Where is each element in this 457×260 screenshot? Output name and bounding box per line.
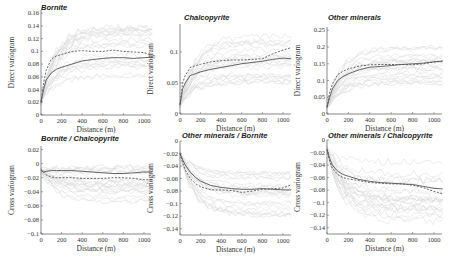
- y-axis-label: Direct variogram: [146, 43, 155, 95]
- panel-6: −0.14−0.12−0.1−0.08−0.06−0.04−0.02002004…: [293, 131, 443, 253]
- y-tick-label: 0.08: [28, 60, 39, 67]
- panel-title: Other minerals / Bornite: [182, 131, 267, 140]
- realization-lines: [41, 24, 152, 105]
- y-tick-label: −0.02: [24, 174, 39, 181]
- y-tick-label: 0.06: [28, 73, 40, 80]
- y-tick-label: 0.1: [31, 47, 39, 54]
- y-tick-label: −0.04: [163, 162, 179, 169]
- y-axis-label: Direct variogram: [7, 37, 16, 89]
- y-tick-label: 0.15: [314, 60, 325, 67]
- x-tick-label: 400: [216, 116, 226, 123]
- x-tick-label: 200: [196, 237, 206, 244]
- panel-title: Other minerals / Chalcopyrite: [328, 131, 433, 140]
- x-tick-label: 400: [77, 236, 87, 243]
- x-tick-label: 200: [344, 116, 354, 123]
- x-tick-label: 0: [325, 116, 328, 123]
- y-tick-label: −0.12: [163, 212, 178, 219]
- x-tick-label: 200: [344, 236, 354, 243]
- x-tick-label: 1000: [277, 116, 290, 123]
- panel-title: Bornite: [41, 3, 67, 12]
- y-tick-label: −0.14: [163, 225, 179, 232]
- x-tick-label: 1000: [428, 116, 441, 123]
- x-axis-label: Distance (m): [365, 244, 404, 253]
- y-tick-label: −0.06: [163, 175, 179, 182]
- realization-lines: [327, 45, 443, 108]
- x-tick-label: 200: [57, 236, 67, 243]
- x-tick-label: 600: [237, 237, 247, 244]
- panel-4: −0.1−0.08−0.06−0.04−0.0200.0202004006008…: [7, 134, 152, 253]
- x-axis-label: Distance (m): [77, 244, 116, 253]
- x-tick-label: 600: [237, 116, 247, 123]
- panel-title: Bornite / Chalcopyrite: [41, 134, 119, 143]
- x-axis-label: Distance (m): [216, 245, 255, 254]
- y-tick-label: −0.08: [163, 187, 178, 194]
- y-tick-label: 0.05: [314, 93, 325, 100]
- y-tick-label: 0.04: [28, 86, 40, 93]
- y-tick-label: 0.25: [314, 26, 325, 33]
- y-tick-label: −0.06: [24, 202, 40, 209]
- y-tick-label: −0.02: [310, 149, 325, 156]
- y-tick-label: −0.1: [27, 230, 39, 237]
- y-tick-label: 0.02: [28, 146, 39, 153]
- y-tick-label: −0.12: [310, 211, 325, 218]
- x-tick-label: 400: [365, 236, 375, 243]
- y-tick-label: 0.12: [28, 35, 39, 42]
- y-tick-label: −0.04: [24, 188, 40, 195]
- x-tick-label: 1000: [138, 117, 151, 124]
- x-tick-label: 200: [57, 117, 67, 124]
- y-axis-label: Cross variogram: [146, 163, 155, 213]
- x-axis-label: Distance (m): [77, 125, 116, 134]
- y-tick-label: −0.08: [310, 186, 325, 193]
- y-tick-label: 0.1: [317, 77, 325, 84]
- variogram-figure: 00.020.040.060.080.10.120.140.1602004006…: [0, 0, 457, 260]
- panel-3: 00.050.10.150.20.2502004006008001000Dist…: [293, 13, 443, 133]
- y-tick-label: −0.06: [310, 174, 326, 181]
- realization-lines: [180, 34, 291, 108]
- panel-1: 00.020.040.060.080.10.120.140.1602004006…: [7, 3, 152, 134]
- y-tick-label: −0.14: [310, 224, 326, 231]
- realization-lines: [327, 146, 443, 225]
- y-tick-label: −0.1: [313, 199, 325, 206]
- x-tick-label: 1000: [428, 236, 441, 243]
- y-tick-label: −0.08: [24, 216, 39, 223]
- variogram-grid-svg: 00.020.040.060.080.10.120.140.1602004006…: [0, 0, 457, 260]
- y-axis-label: Cross variogram: [293, 162, 302, 212]
- y-tick-label: 0.1: [170, 48, 178, 55]
- x-tick-label: 600: [98, 236, 108, 243]
- y-axis-label: Direct variogram: [293, 45, 302, 97]
- x-tick-label: 800: [119, 117, 129, 124]
- y-tick-label: 0: [36, 160, 39, 167]
- panel-5: −0.14−0.12−0.1−0.08−0.06−0.04−0.02002004…: [146, 131, 291, 254]
- x-tick-label: 800: [408, 116, 418, 123]
- x-tick-label: 0: [178, 237, 181, 244]
- y-tick-label: −0.02: [163, 150, 178, 157]
- x-tick-label: 800: [408, 236, 418, 243]
- panel-title: Other minerals: [328, 13, 381, 22]
- y-tick-label: −0.1: [166, 200, 178, 207]
- x-tick-label: 200: [196, 116, 206, 123]
- x-tick-label: 600: [386, 116, 396, 123]
- panel-title: Chalcopyrite: [184, 13, 229, 22]
- y-tick-label: 0.14: [28, 22, 40, 29]
- x-tick-label: 800: [258, 237, 268, 244]
- y-tick-label: 0.16: [28, 9, 40, 16]
- x-tick-label: 0: [39, 236, 42, 243]
- x-tick-label: 400: [77, 117, 87, 124]
- y-tick-label: 0: [175, 137, 178, 144]
- x-tick-label: 0: [325, 236, 328, 243]
- y-tick-label: 0.2: [317, 43, 325, 50]
- x-tick-label: 1000: [138, 236, 151, 243]
- x-tick-label: 1000: [277, 237, 290, 244]
- x-tick-label: 600: [386, 236, 396, 243]
- x-tick-label: 800: [119, 236, 129, 243]
- x-tick-label: 400: [216, 237, 226, 244]
- y-tick-label: 0.02: [28, 98, 39, 105]
- y-tick-label: −0.04: [310, 161, 326, 168]
- x-tick-label: 0: [178, 116, 181, 123]
- x-tick-label: 0: [39, 117, 42, 124]
- y-axis-label: Cross variogram: [7, 165, 16, 215]
- panel-2: 00.050.102004006008001000Distance (m)Dir…: [146, 13, 291, 133]
- y-tick-label: 0: [322, 136, 325, 143]
- x-tick-label: 800: [258, 116, 268, 123]
- y-tick-label: 0.05: [167, 79, 178, 86]
